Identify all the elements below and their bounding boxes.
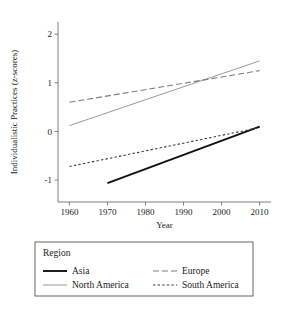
x-axis-tick-label: 2000 xyxy=(213,207,232,217)
series-line-asia xyxy=(107,127,259,183)
axis-titles: YearIndividualistic Practices (z-scores) xyxy=(9,50,173,230)
y-axis-tick-label: 0 xyxy=(48,127,53,137)
tick-labels: -1012196019701980199020002010 xyxy=(45,29,270,217)
x-axis-tick-label: 1980 xyxy=(136,207,155,217)
chart-figure: -1012196019701980199020002010 YearIndivi… xyxy=(0,0,288,309)
x-axis-title: Year xyxy=(156,220,173,230)
x-axis-tick-label: 1960 xyxy=(60,207,79,217)
y-axis-tick-label: -1 xyxy=(45,175,53,185)
series-line-south-america xyxy=(69,128,259,167)
data-series xyxy=(69,61,259,183)
x-axis-tick-label: 1990 xyxy=(175,207,194,217)
y-axis-tick-label: 2 xyxy=(48,29,53,39)
series-line-north-america xyxy=(69,61,259,126)
legend-title: Region xyxy=(43,248,71,258)
series-line-europe xyxy=(69,71,259,103)
line-chart: -1012196019701980199020002010 YearIndivi… xyxy=(0,0,288,309)
x-axis-tick-label: 2010 xyxy=(251,207,270,217)
legend-label-europe: Europe xyxy=(182,266,209,276)
legend-label-asia: Asia xyxy=(72,266,90,276)
x-axis-tick-label: 1970 xyxy=(98,207,117,217)
axes xyxy=(55,22,272,206)
y-axis-tick-label: 1 xyxy=(48,78,53,88)
legend-label-north-america: North America xyxy=(72,280,130,290)
y-axis-title: Individualistic Practices (z-scores) xyxy=(9,50,19,174)
legend-label-south-america: South America xyxy=(182,280,240,290)
legend: RegionAsiaEuropeNorth AmericaSouth Ameri… xyxy=(35,242,253,296)
